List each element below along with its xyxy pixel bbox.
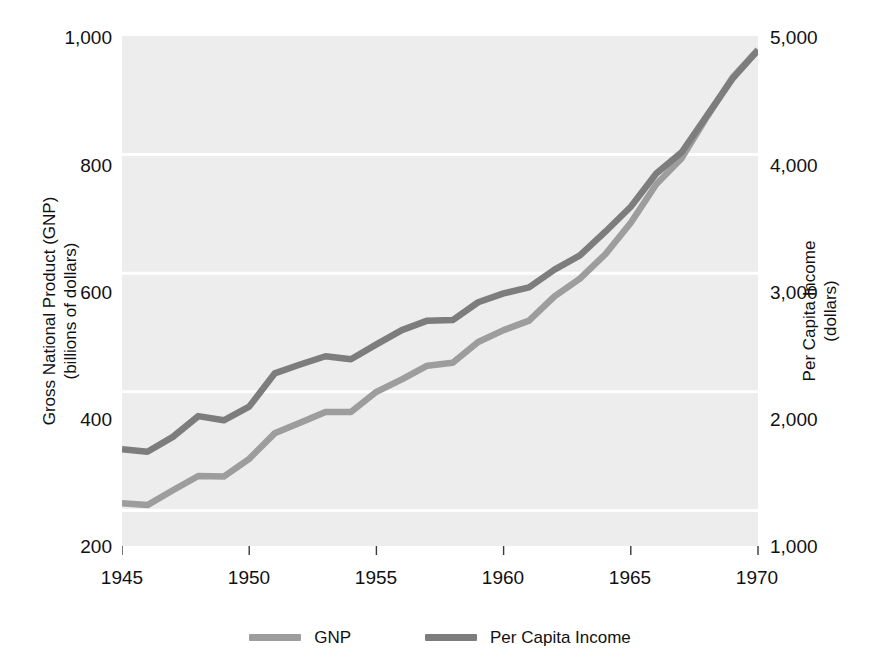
y-axis-left-tick-1000: 1,000 — [16, 28, 112, 47]
legend-item-per-capita-income: Per Capita Income — [425, 629, 631, 646]
y-axis-left-title-line1: Gross National Product (GNP) — [39, 51, 60, 571]
x-axis-tick-1965: 1965 — [590, 568, 670, 587]
x-axis-tick-1945: 1945 — [82, 568, 162, 587]
y-axis-right-tick-4000: 4,000 — [770, 156, 866, 175]
plot-area — [122, 36, 758, 546]
y-axis-right-title-line2: (dollars) — [820, 51, 841, 571]
x-axis-tick-1970: 1970 — [717, 568, 797, 587]
y-axis-right-tick-2000: 2,000 — [770, 410, 866, 429]
y-axis-right-title-line1: Per Capita Income — [799, 51, 820, 571]
legend-item-gnp: GNP — [249, 629, 351, 646]
x-axis-tick-1950: 1950 — [209, 568, 289, 587]
y-axis-right-tick-3000: 3,000 — [770, 283, 866, 302]
legend-label-gnp: GNP — [314, 629, 351, 646]
gridlines — [122, 155, 758, 511]
y-axis-right-title: Per Capita Income (dollars) — [799, 51, 841, 571]
x-axis-tick-1955: 1955 — [336, 568, 416, 587]
y-axis-left-title: Gross National Product (GNP) (billions o… — [39, 51, 81, 571]
series-line-gnp — [122, 50, 758, 505]
x-axis-tickmarks — [122, 546, 762, 560]
y-axis-left-tick-400: 400 — [16, 410, 112, 429]
x-axis-tick-1960: 1960 — [463, 568, 543, 587]
chart-figure: Gross National Product (GNP) (billions o… — [0, 0, 880, 662]
legend-label-per-capita-income: Per Capita Income — [490, 629, 631, 646]
y-axis-right-tick-5000: 5,000 — [770, 28, 866, 47]
chart-legend: GNP Per Capita Income — [0, 620, 880, 654]
legend-swatch-per-capita-income — [425, 634, 477, 641]
series-lines — [122, 50, 758, 505]
y-axis-left-title-line2: (billions of dollars) — [60, 51, 81, 571]
y-axis-left-tick-200: 200 — [16, 537, 112, 556]
y-axis-left-tick-800: 800 — [16, 156, 112, 175]
y-axis-left-tick-600: 600 — [16, 283, 112, 302]
plot-svg — [122, 36, 758, 546]
y-axis-right-tick-1000: 1,000 — [770, 537, 866, 556]
legend-swatch-gnp — [249, 634, 301, 641]
